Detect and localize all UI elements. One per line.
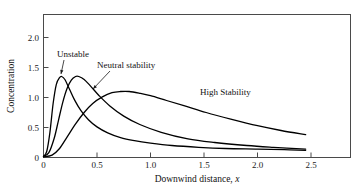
x-tick-label: 1.5: [198, 160, 210, 170]
x-tick-label: 2.5: [305, 160, 317, 170]
x-axis-title: Downwind distance, x: [155, 174, 240, 184]
y-tick-label: 0: [35, 153, 40, 163]
figure-container: 00.51.01.52.02.5 00.51.01.52.0 Unstable …: [0, 0, 360, 193]
series-label-unstable: Unstable: [57, 49, 89, 59]
y-axis-title: Concentration: [6, 59, 16, 113]
y-tick-label: 1.0: [28, 93, 40, 103]
y-tick-label: 2.0: [28, 33, 40, 43]
concentration-vs-downwind-distance-chart: 00.51.01.52.02.5 00.51.01.52.0 Unstable …: [0, 0, 360, 193]
x-tick-label: 1.0: [145, 160, 157, 170]
y-tick-label: 1.5: [28, 63, 40, 73]
x-tick-label: 2.0: [252, 160, 264, 170]
x-tick-label: 0: [41, 160, 46, 170]
series-label-neutral-stability: Neutral stability: [97, 60, 156, 70]
series-label-high-stability: High Stability: [200, 87, 251, 97]
x-tick-label: 0.5: [91, 160, 103, 170]
y-tick-label: 0.5: [28, 123, 40, 133]
